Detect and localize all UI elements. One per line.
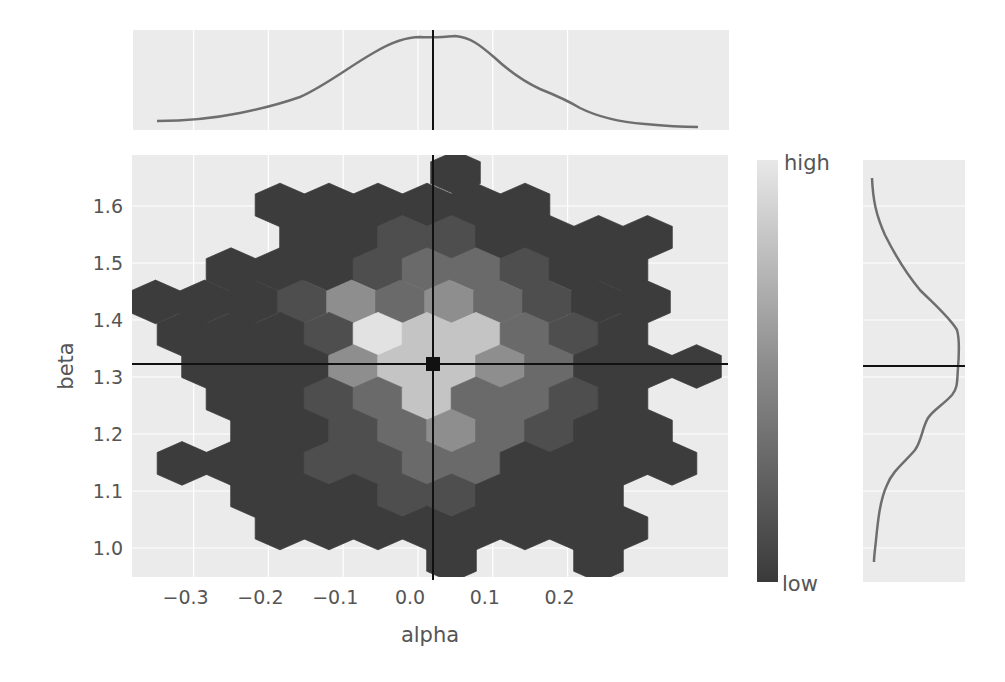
right-marginal-panel xyxy=(863,160,965,582)
x-tick-label: 0.0 xyxy=(395,586,425,608)
reference-point-marker xyxy=(426,357,440,371)
y-tick-label: 1.3 xyxy=(93,366,123,388)
y-tick-label: 1.2 xyxy=(93,423,123,445)
x-tick-label: −0.1 xyxy=(312,586,358,608)
y-axis-tick-labels: 1.01.11.21.31.41.51.6 xyxy=(93,195,123,559)
colorbar-low-label: low xyxy=(782,572,818,596)
main-hexbin-panel xyxy=(131,151,728,582)
y-tick-label: 1.4 xyxy=(93,309,123,331)
y-tick-label: 1.6 xyxy=(93,195,123,217)
top-marginal-panel xyxy=(133,30,729,130)
x-tick-label: −0.3 xyxy=(163,586,209,608)
colorbar-gradient xyxy=(757,160,778,582)
x-tick-label: −0.2 xyxy=(237,586,283,608)
y-axis-label: beta xyxy=(54,342,78,389)
x-axis-tick-labels: −0.3−0.2−0.10.00.10.2 xyxy=(163,586,575,608)
x-tick-label: 0.2 xyxy=(544,586,574,608)
y-tick-label: 1.0 xyxy=(93,537,123,559)
y-tick-label: 1.5 xyxy=(93,252,123,274)
x-tick-label: 0.1 xyxy=(470,586,500,608)
colorbar: high low xyxy=(757,151,830,596)
y-tick-label: 1.1 xyxy=(93,480,123,502)
x-axis-label: alpha xyxy=(401,623,459,647)
colorbar-high-label: high xyxy=(784,151,830,175)
joint-hexbin-figure: −0.3−0.2−0.10.00.10.2 1.01.11.21.31.41.5… xyxy=(0,0,1005,682)
